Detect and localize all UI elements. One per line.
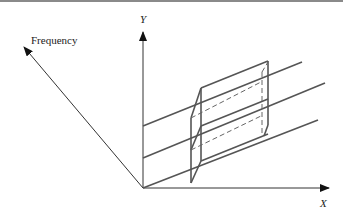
line-middle (143, 83, 325, 158)
y-axis-label: Y (140, 13, 148, 25)
axes (24, 32, 329, 188)
frequency-axis-label: Frequency (31, 34, 78, 46)
prism-hidden-edges (191, 62, 268, 150)
x-axis-label: X (319, 197, 328, 209)
line-top (143, 62, 302, 126)
frequency-axis (24, 47, 143, 188)
parallel-lines (143, 62, 325, 188)
line-bottom (143, 120, 318, 188)
frequency-diagram: Frequency Y X (0, 0, 343, 219)
